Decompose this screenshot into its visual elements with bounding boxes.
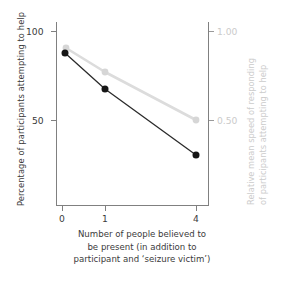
y-tick-label-50: 50 xyxy=(32,115,44,126)
x-tick-label-1: 1 xyxy=(102,213,108,224)
x-axis-title-line1: Number of people believed to xyxy=(0,228,284,241)
data-point-dark-2 xyxy=(193,152,200,159)
y-ticks-left xyxy=(51,32,57,121)
x-axis-title-line3: participant and ‘seizure victim’) xyxy=(0,253,284,266)
data-point-light-2 xyxy=(193,117,200,124)
y-axis-title-right: Relative mean speed of responding of par… xyxy=(246,15,269,205)
series-line-light xyxy=(66,48,196,120)
y-axis-title-right-line1: Relative mean speed of responding xyxy=(246,58,256,205)
x-ticks xyxy=(63,206,197,212)
y-ticks-right xyxy=(209,32,215,121)
figure: 100 50 1.00 0.50 0 1 4 Percentage of par… xyxy=(0,0,284,281)
y-tick-label-1-00: 1.00 xyxy=(217,26,237,37)
y-tick-label-0-50: 0.50 xyxy=(217,115,237,126)
y-tick-label-100: 100 xyxy=(26,26,44,37)
x-axis-title: Number of people believed to be present … xyxy=(0,228,284,266)
x-tick-label-0: 0 xyxy=(59,213,65,224)
data-point-light-1 xyxy=(102,69,109,76)
data-point-dark-0 xyxy=(62,50,69,57)
y-axis-title-left: Percentage of participants attempting to… xyxy=(16,12,26,206)
series-relative-speed xyxy=(63,45,200,124)
data-point-dark-1 xyxy=(102,86,109,93)
x-tick-label-4: 4 xyxy=(193,213,199,224)
series-line-dark xyxy=(65,53,196,155)
y-axis-title-right-line2: of participants attempting to help xyxy=(258,65,268,205)
x-axis-title-line2: be present (in addition to xyxy=(0,241,284,254)
series-percentage-helping xyxy=(62,50,200,159)
